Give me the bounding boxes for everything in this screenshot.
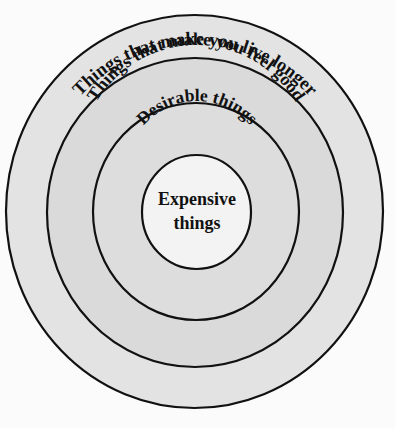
concentric-circles-diagram: Things that make you live longer Things … bbox=[0, 0, 395, 428]
inner-label-line1: Expensive bbox=[158, 189, 236, 209]
inner-label-line2: things bbox=[173, 213, 220, 233]
inner-circle bbox=[142, 155, 251, 269]
